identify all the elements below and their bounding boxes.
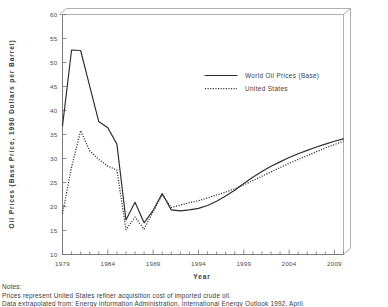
y-tick-label: 40: [50, 107, 58, 114]
notes-block: Notes: Prices represent United States re…: [2, 283, 305, 307]
x-tick-label: 2004: [282, 260, 297, 267]
y-tick-label: 20: [50, 203, 58, 210]
x-tick-label: 1999: [236, 260, 251, 267]
y-tick-label: 55: [50, 35, 58, 42]
x-axis-ticks: [63, 250, 344, 255]
legend-label-united-states: United States: [245, 85, 288, 92]
notes-line-1: Prices represent United States refiner a…: [2, 292, 231, 300]
x-tick-label: 2009: [327, 260, 342, 267]
y-tick-label: 50: [50, 59, 58, 66]
chart-legend: World Oil Prices (Base) United States: [205, 72, 319, 92]
x-axis-title: Year: [193, 273, 211, 280]
y-tick-label: 45: [50, 83, 58, 90]
x-tick-label: 1979: [55, 260, 70, 267]
notes-heading: Notes:: [2, 283, 22, 290]
y-axis-tick-labels: 1015202530354045505560: [50, 11, 58, 258]
oil-prices-chart: 1015202530354045505560 19791984198919941…: [0, 0, 388, 307]
y-tick-label: 15: [50, 227, 58, 234]
chart-frame-3d: [60, 9, 351, 255]
legend-label-world-oil-prices-base: World Oil Prices (Base): [245, 72, 319, 80]
x-tick-label: 1984: [100, 260, 115, 267]
y-axis-ticks: [63, 15, 67, 255]
series-united-states: [63, 131, 344, 230]
y-tick-label: 30: [50, 155, 58, 162]
y-tick-label: 10: [50, 251, 58, 258]
x-tick-label: 1994: [191, 260, 206, 267]
y-axis-title: Oil Prices (Base Price, 1990 Dollars per…: [8, 39, 16, 228]
y-tick-label: 25: [50, 179, 58, 186]
chart-axes: [63, 15, 344, 255]
x-axis-tick-labels: 1979198419891994199920042009: [55, 260, 342, 267]
y-tick-label: 60: [50, 11, 58, 18]
y-tick-label: 35: [50, 131, 58, 138]
x-tick-label: 1989: [146, 260, 161, 267]
notes-line-2: Data extrapolated from: Energy Informati…: [2, 300, 305, 307]
